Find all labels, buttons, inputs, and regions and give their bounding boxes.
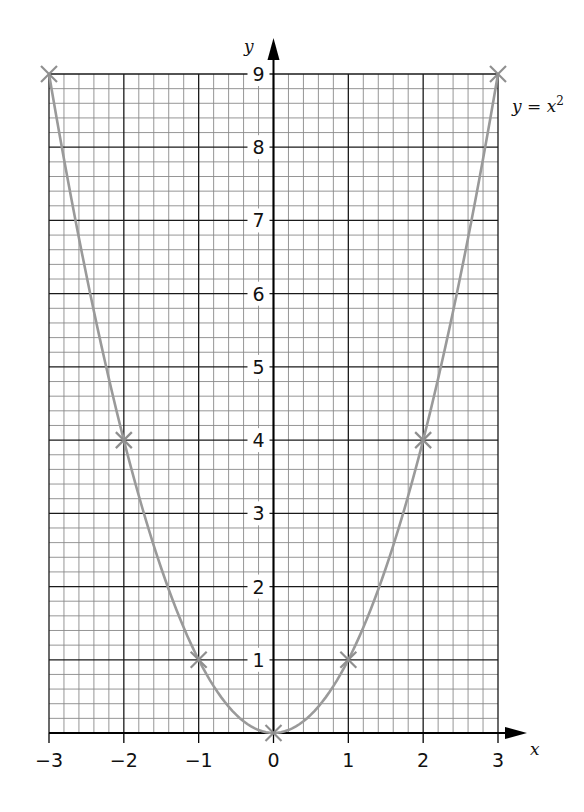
- x-tick-label: −2: [110, 749, 138, 771]
- y-tick-labels: 123456789: [248, 62, 270, 672]
- x-tick-label: 2: [417, 749, 429, 771]
- y-tick-label: 9: [252, 63, 264, 85]
- x-axis-label: x: [530, 739, 540, 759]
- y-tick-label: 6: [252, 283, 264, 305]
- equation-exponent: 2: [556, 94, 564, 108]
- x-tick-label: −1: [185, 749, 213, 771]
- y-tick-label: 5: [252, 356, 264, 378]
- y-tick-label: 8: [252, 136, 264, 158]
- y-tick-label: 2: [252, 576, 264, 598]
- y-tick-label: 7: [252, 209, 264, 231]
- quadratic-graph: 123456789 −3−2−10123 x y y = x2: [0, 0, 584, 812]
- y-tick-label: 4: [252, 429, 264, 451]
- equation-lhs: y = x: [511, 96, 557, 116]
- x-tick-label: 1: [342, 749, 354, 771]
- x-tick-label: −3: [35, 749, 63, 771]
- axes: [49, 38, 527, 743]
- y-tick-label: 1: [252, 649, 264, 671]
- x-tick-label: 0: [267, 749, 279, 771]
- y-tick-label: 3: [252, 502, 264, 524]
- y-axis-label: y: [243, 36, 254, 56]
- equation-label: y = x2: [511, 94, 564, 116]
- x-tick-label: 3: [492, 749, 504, 771]
- x-tick-labels: −3−2−10123: [35, 749, 504, 771]
